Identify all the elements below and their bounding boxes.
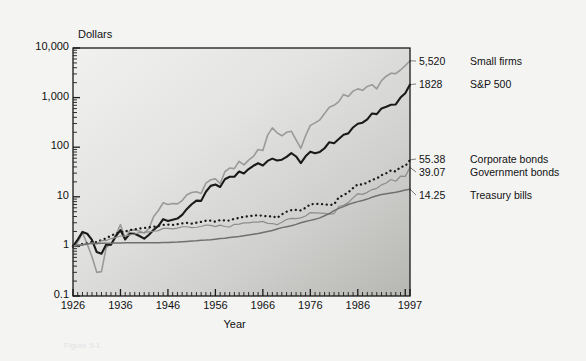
series-end-value: 39.07 — [419, 166, 445, 178]
x-tick-label: 1946 — [142, 299, 194, 311]
y-tick-label: 10,000 — [35, 40, 69, 52]
figure-container: Dollars 10,0001,0001001010.1 19261936194… — [0, 0, 586, 361]
x-tick-label: 1956 — [189, 299, 241, 311]
series-end-value: 55.38 — [419, 153, 445, 165]
x-tick-label: 1936 — [94, 299, 146, 311]
y-tick-label: 1,000 — [41, 90, 69, 102]
y-tick-label: 1 — [63, 238, 69, 250]
x-tick-label: 1986 — [332, 299, 384, 311]
figure-caption: Figure 5-1 — [64, 341, 100, 350]
x-tick-label: 1966 — [237, 299, 289, 311]
x-axis-label: Year — [224, 318, 246, 330]
x-tick-label: 1976 — [284, 299, 336, 311]
series-end-value: 5,520 — [419, 55, 445, 67]
series-end-value: 1828 — [419, 78, 442, 90]
series-legend-label: Treasury bills — [470, 189, 532, 201]
label-leader-lines — [410, 61, 416, 195]
x-tick-label: 1926 — [47, 299, 99, 311]
series-legend-label: S&P 500 — [470, 78, 511, 90]
series-legend-label: Corporate bonds — [470, 153, 548, 165]
y-tick-label: 10 — [57, 189, 69, 201]
series-end-value: 14.25 — [419, 189, 445, 201]
series-legend-label: Small firms — [470, 55, 522, 67]
y-tick-label: 100 — [51, 139, 69, 151]
series-legend-label: Government bonds — [470, 166, 559, 178]
x-tick-label: 1997 — [384, 299, 436, 311]
